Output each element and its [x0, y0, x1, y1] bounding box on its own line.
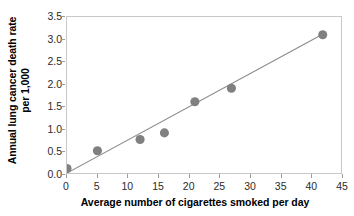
y-axis-tick-mark — [61, 174, 65, 175]
x-axis-tick-mark — [97, 174, 98, 178]
x-axis-tick-label: 35 — [275, 180, 287, 192]
x-axis-tick-label: 20 — [183, 180, 195, 192]
data-point — [318, 30, 327, 39]
x-axis-tick-mark — [250, 174, 251, 178]
x-axis-title: Average number of cigarettes smoked per … — [40, 196, 350, 208]
x-axis-tick-mark — [219, 174, 220, 178]
x-axis-tick-mark — [127, 174, 128, 178]
x-axis-tick-label: 25 — [213, 180, 225, 192]
y-axis-title: Annual lung cancer death rate per 1,000 — [0, 0, 38, 180]
y-axis-tick-mark — [61, 39, 65, 40]
y-axis-tick-label: 1.5 — [47, 100, 62, 112]
x-axis-tick-mark — [189, 174, 190, 178]
data-point — [136, 135, 145, 144]
y-axis-tick-mark — [61, 129, 65, 130]
x-axis-tick-mark — [158, 174, 159, 178]
y-axis-tick-labels: 0.00.51.01.52.02.53.03.5 — [36, 10, 64, 178]
x-axis-tick-label: 30 — [244, 180, 256, 192]
y-axis-tick-label: 2.5 — [47, 55, 62, 67]
x-axis-tick-label: 45 — [336, 180, 348, 192]
y-axis-tick-mark — [61, 151, 65, 152]
data-point — [67, 164, 72, 173]
x-axis-tick-labels: 051015202530354045 — [66, 180, 342, 194]
x-axis-tick-label: 10 — [121, 180, 133, 192]
y-axis-tick-label: 0.0 — [47, 168, 62, 180]
x-axis-tick-marks — [66, 174, 342, 179]
x-axis-tick-label: 40 — [305, 180, 317, 192]
scatter-chart-figure: Annual lung cancer death rate per 1,000 … — [0, 0, 354, 216]
x-axis-tick-mark — [281, 174, 282, 178]
plot-area — [66, 16, 342, 174]
y-axis-tick-mark — [61, 61, 65, 62]
x-axis-tick-mark — [342, 174, 343, 178]
data-point — [190, 97, 199, 106]
x-axis-tick-label: 5 — [94, 180, 100, 192]
y-axis-title-line1: Annual lung cancer death rate — [7, 16, 20, 164]
data-point — [227, 84, 236, 93]
y-axis-tick-mark — [61, 84, 65, 85]
plot-canvas — [67, 17, 341, 173]
x-axis-tick-mark — [311, 174, 312, 178]
y-axis-tick-label: 3.5 — [47, 10, 62, 22]
x-axis-tick-label: 15 — [152, 180, 164, 192]
y-axis-tick-label: 0.5 — [47, 145, 62, 157]
y-axis-tick-label: 2.0 — [47, 78, 62, 90]
data-point — [93, 146, 102, 155]
y-axis-title-line2: per 1,000 — [19, 16, 32, 164]
y-axis-tick-label: 3.0 — [47, 33, 62, 45]
data-point — [160, 128, 169, 137]
x-axis-tick-mark — [66, 174, 67, 178]
y-axis-tick-label: 1.0 — [47, 123, 62, 135]
y-axis-tick-mark — [61, 16, 65, 17]
x-axis-tick-label: 0 — [63, 180, 69, 192]
y-axis-tick-mark — [61, 106, 65, 107]
